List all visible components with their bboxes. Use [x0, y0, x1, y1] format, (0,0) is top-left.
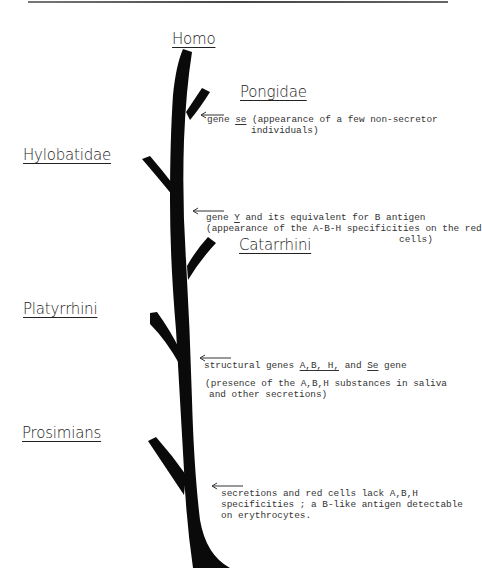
annotation-structural-genes-detail: (presence of the A,B,H substances in sal… [205, 378, 447, 400]
gene-symbols: A,B, H, [300, 360, 339, 371]
annotation-text: and [339, 360, 367, 371]
branch-prosimians [148, 437, 186, 495]
annotation-text: and other secretions) [205, 389, 327, 400]
taxon-label-homo: Homo [172, 30, 215, 48]
annotation-prosimians: secretions and red cells lack A,B,H spec… [221, 488, 463, 521]
annotation-text: gene [206, 212, 234, 223]
branch-hylobatidae [142, 156, 173, 196]
taxon-label-hylobatidae: Hylobatidae [23, 146, 111, 164]
annotation-text: (appearance of the A-B-H specificities o… [206, 223, 482, 234]
annotation-text: specificities ; a B-like antigen detecta… [221, 499, 463, 510]
annotation-text: gene [378, 360, 406, 371]
annotation-text: on erythrocytes. [221, 510, 311, 521]
annotation-se-gene: gene se (appearance of a few non-secreto… [207, 114, 438, 136]
annotation-text: secretions and red cells lack A,B,H [221, 488, 418, 499]
taxon-label-pongidae: Pongidae [240, 83, 307, 101]
annotation-text: (appearance of a few non-secretor [246, 114, 437, 125]
annotation-text: individuals) [207, 125, 319, 136]
annotation-text: gene [207, 114, 235, 125]
gene-symbol: Se [367, 360, 378, 371]
annotation-text: structural genes [204, 360, 300, 371]
taxon-label-platyrrhini: Platyrrhini [23, 300, 97, 318]
annotation-y-gene: gene Y and its equivalent for B antigen … [206, 212, 482, 245]
gene-symbol: se [235, 114, 246, 125]
annotation-text: (presence of the A,B,H substances in sal… [205, 378, 447, 389]
annotation-text: cells) [206, 234, 433, 245]
annotation-structural-genes: structural genes A,B, H, and Se gene [204, 360, 407, 371]
annotation-text: and its equivalent for B antigen [240, 212, 426, 223]
taxon-label-prosimians: Prosimians [22, 424, 101, 442]
